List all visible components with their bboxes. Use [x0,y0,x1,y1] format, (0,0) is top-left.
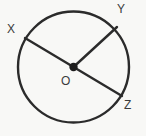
center-point-marker [69,63,77,71]
point-label-z: Z [124,99,131,111]
center-label-o: O [61,75,70,87]
circle-diagram: X Y Z O [0,0,146,136]
radius-oy-line [74,27,118,67]
point-label-y: Y [117,3,125,15]
circle-diagram-canvas [0,0,146,136]
point-label-x: X [7,23,15,35]
